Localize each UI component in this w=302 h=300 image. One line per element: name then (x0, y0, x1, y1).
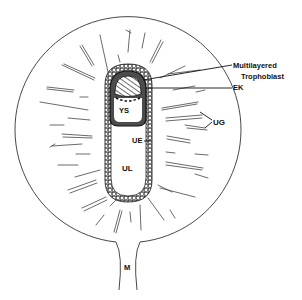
label-ek: EK (233, 84, 243, 92)
label-m: M (124, 264, 130, 272)
leader-lines (143, 65, 232, 141)
label-ue: UE (132, 137, 142, 145)
label-multilayered: Multilayered (233, 62, 277, 70)
label-ug: UG (213, 119, 225, 127)
label-trophoblast: Trophoblast (241, 73, 284, 81)
label-ys: YS (119, 107, 129, 115)
embryonic-knob (115, 76, 141, 97)
diagram-canvas (0, 0, 302, 300)
label-ul: UL (122, 165, 133, 173)
